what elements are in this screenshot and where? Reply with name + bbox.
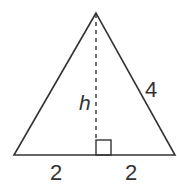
base-right-label: 2 bbox=[125, 162, 137, 184]
right-angle-marker bbox=[96, 140, 111, 155]
height-label: h bbox=[79, 92, 91, 113]
side-label: 4 bbox=[145, 79, 157, 101]
base-left-label: 2 bbox=[50, 162, 62, 184]
